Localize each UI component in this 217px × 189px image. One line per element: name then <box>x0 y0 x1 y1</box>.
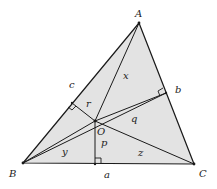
label-z: z <box>137 147 144 158</box>
label-O: O <box>97 126 105 137</box>
label-C: C <box>199 168 207 179</box>
triangle-ABC <box>23 23 194 164</box>
point-b <box>165 92 167 94</box>
label-y: y <box>61 146 68 157</box>
point-C <box>193 163 196 166</box>
point-a <box>94 163 96 165</box>
point-A <box>138 22 141 25</box>
triangle-diagram: A B C O a b c x y z p q r <box>0 0 217 189</box>
label-B: B <box>8 168 16 179</box>
label-q: q <box>131 113 137 124</box>
point-c <box>71 102 73 104</box>
label-b: b <box>175 84 181 95</box>
label-p: p <box>101 137 108 148</box>
label-x: x <box>123 70 129 81</box>
label-a: a <box>104 169 110 180</box>
label-A: A <box>134 8 142 19</box>
point-B <box>22 162 25 165</box>
label-c: c <box>69 79 75 90</box>
point-O <box>94 120 97 123</box>
